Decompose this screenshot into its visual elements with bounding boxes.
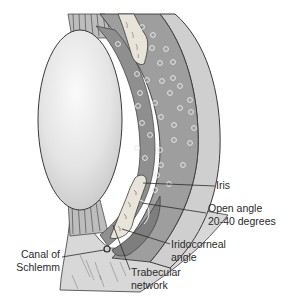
label-canal-of-schlemm: Canal of Schlemm	[12, 248, 60, 273]
label-trabecular-network: Trabecular network	[131, 266, 181, 291]
lens	[38, 30, 122, 210]
label-canal-line1: Canal of	[12, 248, 60, 261]
label-iris: Iris	[216, 179, 230, 192]
label-iridocorneal-angle: Iridocorneal angle	[171, 238, 226, 263]
label-open-angle: Open angle 20-40 degrees	[208, 202, 276, 227]
canal-of-schlemm	[104, 246, 110, 252]
label-open-angle-line1: Open angle	[208, 202, 276, 215]
label-trabecular-line1: Trabecular	[131, 266, 181, 279]
label-canal-line2: Schlemm	[12, 261, 60, 274]
label-iridocorneal-line1: Iridocorneal	[171, 238, 226, 251]
label-iridocorneal-line2: angle	[171, 251, 226, 264]
label-open-angle-line2: 20-40 degrees	[208, 215, 276, 228]
label-trabecular-line2: network	[131, 279, 181, 292]
label-iris-text: Iris	[216, 179, 230, 192]
